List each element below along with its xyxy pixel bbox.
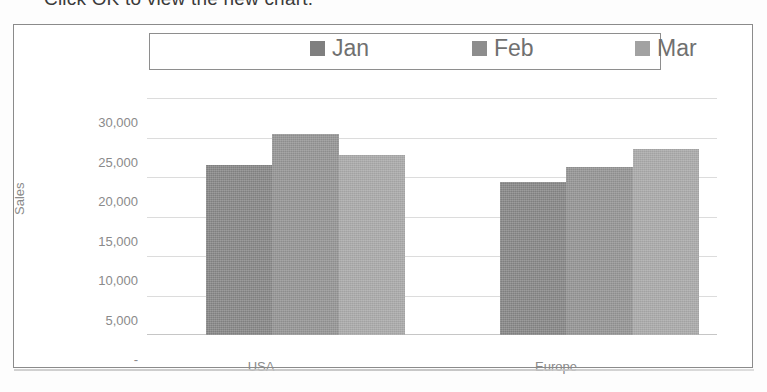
legend-item-mar[interactable]: Mar [635,37,697,60]
caption-clip: Click OK to view the new chart. [0,0,767,14]
x-label-usa: USA [163,359,359,374]
gridline-25000 [147,138,717,139]
bar-europe-jan[interactable] [500,182,567,335]
legend-label-feb: Feb [494,37,534,60]
bar-usa-mar[interactable] [339,155,406,335]
plot-area [147,98,717,335]
y-tick-0: - [62,352,138,367]
chart-legend[interactable]: Jan Feb Mar [149,33,661,70]
frame-bottom-shadow [14,369,754,371]
caption-text: Click OK to view the new chart. [44,0,313,10]
chart-frame[interactable]: Jan Feb Mar Sales 30,000 25,000 20,000 1… [13,24,753,368]
y-axis-tick-labels: 30,000 25,000 20,000 15,000 10,000 5,000… [62,122,138,359]
legend-swatch-icon-feb [472,41,487,56]
bar-usa-jan[interactable] [206,165,273,335]
legend-swatch-icon-jan [310,41,325,56]
legend-item-jan[interactable]: Jan [310,37,369,60]
y-tick-20000: 20,000 [62,194,138,209]
x-axis-category-labels: USA Europe [147,359,717,385]
x-label-europe: Europe [458,359,654,374]
gridline-30000 [147,98,717,99]
y-tick-10000: 10,000 [62,273,138,288]
y-tick-15000: 15,000 [62,233,138,248]
legend-label-mar: Mar [657,37,697,60]
bar-europe-mar[interactable] [633,149,700,335]
legend-item-feb[interactable]: Feb [472,37,534,60]
y-tick-25000: 25,000 [62,154,138,169]
legend-label-jan: Jan [332,37,369,60]
legend-swatch-icon-mar [635,41,650,56]
y-tick-5000: 5,000 [62,312,138,327]
bar-europe-feb[interactable] [566,167,633,335]
bar-usa-feb[interactable] [272,134,339,335]
y-tick-30000: 30,000 [62,115,138,130]
y-axis-title: Sales [12,182,27,215]
